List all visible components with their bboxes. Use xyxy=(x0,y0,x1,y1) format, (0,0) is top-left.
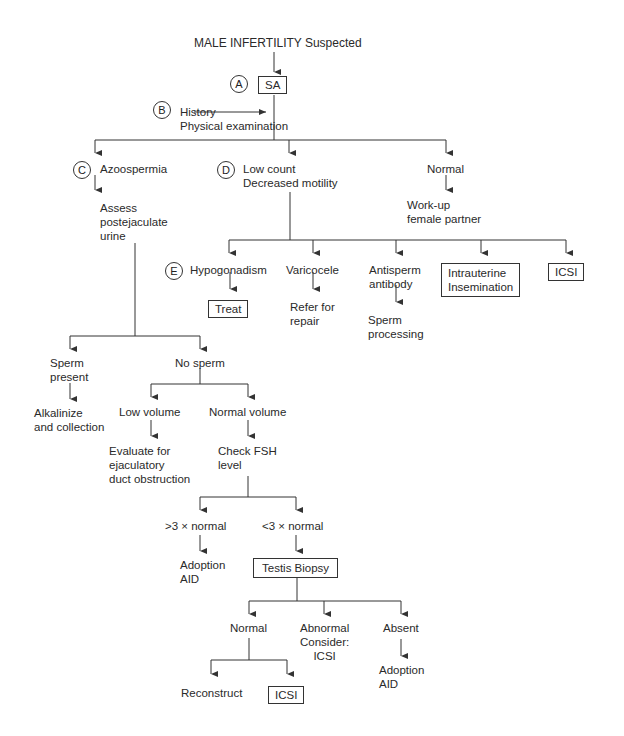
node-hypogonadism: Hypogonadism xyxy=(190,263,267,277)
node-evaluate-obstruction: Evaluate for ejaculatory duct obstructio… xyxy=(109,444,190,486)
node-adoption-aid-2: Adoption AID xyxy=(379,663,424,691)
node-treat: Treat xyxy=(208,300,248,318)
node-sa: SA xyxy=(258,76,287,94)
node-varicocele: Varicocele xyxy=(286,263,339,277)
node-intrauterine-insemination: Intrauterine Insemination xyxy=(441,263,520,297)
node-low-volume: Low volume xyxy=(119,405,180,419)
node-alkalinize: Alkalinize and collection xyxy=(34,406,104,434)
node-no-sperm: No sperm xyxy=(175,356,225,370)
node-icsi-top: ICSI xyxy=(548,263,584,281)
node-fsh-greater-3x: >3 × normal xyxy=(165,519,226,533)
marker-e: E xyxy=(165,262,183,280)
node-check-fsh: Check FSH level xyxy=(218,444,277,472)
node-history: History Physical examination xyxy=(180,105,288,133)
node-fsh-less-3x: <3 × normal xyxy=(262,519,323,533)
node-normal-bottom: Normal xyxy=(230,621,267,635)
marker-c: C xyxy=(73,161,91,179)
node-sperm-processing: Sperm processing xyxy=(368,313,424,341)
node-antisperm-antibody: Antisperm antibody xyxy=(369,263,421,291)
title-male-infertility: MALE INFERTILITY Suspected xyxy=(194,36,362,50)
node-low-count: Low count Decreased motility xyxy=(243,162,338,190)
node-azoospermia: Azoospermia xyxy=(100,162,167,176)
node-normal-volume: Normal volume xyxy=(209,405,286,419)
node-absent: Absent xyxy=(383,621,419,635)
node-assess-urine: Assess postejaculate urine xyxy=(100,201,168,243)
node-adoption-aid-1: Adoption AID xyxy=(180,558,225,586)
node-sperm-present: Sperm present xyxy=(50,356,88,384)
marker-b: B xyxy=(153,101,171,119)
flowchart-canvas: MALE INFERTILITY Suspected A SA B Histor… xyxy=(0,0,624,736)
node-testis-biopsy: Testis Biopsy xyxy=(253,558,338,578)
marker-d: D xyxy=(217,161,235,179)
node-icsi-bottom: ICSI xyxy=(268,686,304,704)
node-abnormal-consider-icsi: Abnormal Consider: ICSI xyxy=(300,621,349,663)
marker-a: A xyxy=(230,75,248,93)
node-reconstruct: Reconstruct xyxy=(181,686,242,700)
node-normal-top: Normal xyxy=(427,162,464,176)
node-workup-female: Work-up female partner xyxy=(407,198,481,226)
node-refer-repair: Refer for repair xyxy=(290,300,335,328)
